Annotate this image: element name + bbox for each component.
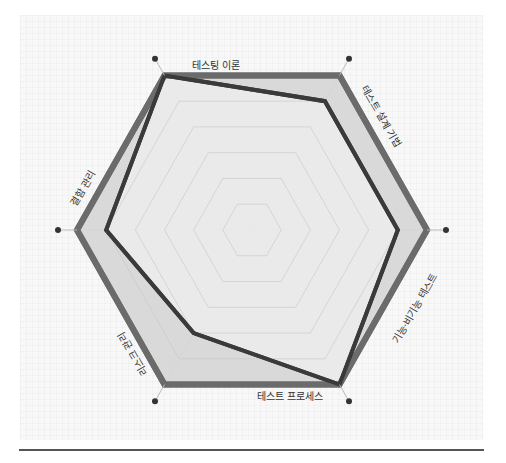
axis-dot [346, 398, 352, 404]
axis-dot [152, 398, 158, 404]
axis-dot [346, 56, 352, 62]
axis-label-3: 테스트 프로세스 [257, 391, 323, 402]
axis-label-0: 테스팅 이론 [192, 60, 240, 71]
axis-dot [152, 56, 158, 62]
bottom-divider [19, 449, 484, 451]
radar-chart: 테스팅 이론 테스트 설계 기법 기능·비기능 테스트 테스트 프로세스 리스크… [0, 0, 506, 463]
axis-dot [443, 227, 449, 233]
axis-dot [55, 227, 61, 233]
